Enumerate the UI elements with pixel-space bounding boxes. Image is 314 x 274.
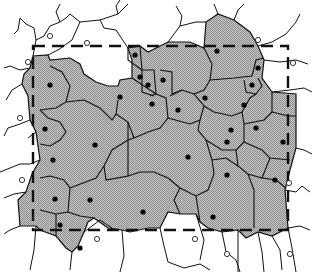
open-seed-circle (84, 40, 89, 45)
filled-seed-dot (214, 48, 219, 53)
open-seed-circle (255, 37, 260, 42)
filled-seed-dot (160, 77, 165, 82)
filled-seed-dot (149, 101, 154, 106)
open-seed-circle (290, 60, 295, 65)
filled-seed-dot (175, 107, 180, 112)
filled-seed-dot (52, 196, 57, 201)
filled-seed-dot (87, 197, 92, 202)
filled-seed-dot (228, 127, 233, 132)
filled-seed-dot (210, 214, 215, 219)
filled-seed-dot (249, 82, 254, 87)
filled-seed-dot (280, 139, 285, 144)
voronoi-diagram (0, 0, 314, 274)
filled-seed-dot (47, 82, 52, 87)
open-seed-circle (47, 33, 52, 38)
filled-seed-dot (202, 95, 207, 100)
open-seed-circle (287, 251, 292, 256)
open-seed-circle (286, 180, 291, 185)
open-seed-circle (19, 177, 24, 182)
filled-seed-dot (77, 245, 82, 250)
open-seed-circle (94, 236, 99, 241)
filled-seed-dot (92, 142, 97, 147)
open-seed-circle (25, 59, 30, 64)
filled-seed-dot (42, 126, 47, 131)
filled-seed-dot (272, 177, 277, 182)
voronoi-svg (0, 0, 314, 274)
open-seed-circle (17, 115, 22, 120)
filled-seed-dot (253, 125, 258, 130)
open-seed-circle (224, 251, 229, 256)
filled-seed-dot (137, 74, 142, 79)
filled-seed-dot (255, 65, 260, 70)
filled-seed-dot (145, 82, 150, 87)
filled-seed-dot (241, 102, 246, 107)
filled-seed-dot (50, 157, 55, 162)
filled-seed-dot (57, 222, 62, 227)
filled-seed-dot (185, 154, 190, 159)
filled-seed-dot (224, 139, 229, 144)
filled-seed-dot (132, 52, 137, 57)
filled-seed-dot (140, 209, 145, 214)
open-seed-circle (192, 236, 197, 241)
filled-seed-dot (117, 94, 122, 99)
filled-seed-dot (224, 172, 229, 177)
